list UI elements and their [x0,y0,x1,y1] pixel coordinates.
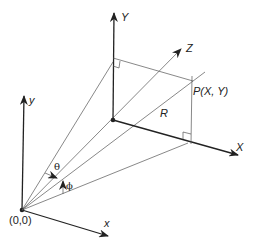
phi-label: ϕ [66,180,73,191]
ray-z-axis [22,49,181,210]
radius-label: R [160,107,168,119]
projection-P-to-X [191,76,192,144]
origin-label: (0,0) [9,214,32,226]
theta-label: θ [54,161,60,172]
theta-arrow [45,173,57,178]
ray-to-x-foot [22,143,188,210]
world-y-axis [22,96,24,210]
world-x-label: x [103,217,110,229]
image-X-label: X [235,141,244,153]
image-Y-label: Y [121,11,129,23]
right-angle-mark-bottom [183,132,191,139]
projection-diagram: y x (0,0) Y X Z P(X, Y) R θ ϕ [0,0,255,246]
image-X-axis [113,120,238,155]
image-center-dot [111,118,116,123]
image-Z-label: Z [185,42,194,54]
world-y-label: y [28,94,36,106]
point-label: P(X, Y) [193,85,229,97]
world-x-axis [22,210,108,236]
